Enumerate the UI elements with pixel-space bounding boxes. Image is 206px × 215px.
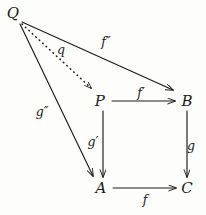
- edge-label-g: g: [187, 138, 195, 153]
- edge-label-g-prime: g′: [88, 134, 99, 149]
- edge-line-f-double-prime: [22, 22, 173, 90]
- node-label-B: B: [181, 92, 192, 110]
- edge-label-g-double-prime: g″: [36, 104, 49, 119]
- node-label-A: A: [95, 179, 106, 197]
- edge-label-f-double-prime: f″: [101, 34, 110, 49]
- edge-label-f-prime: f′: [137, 85, 144, 100]
- node-label-P: P: [95, 92, 105, 110]
- commutative-diagram: Q P B A C f″ q g″ f′ g′ g f: [0, 0, 206, 215]
- edge-label-f: f: [143, 192, 148, 207]
- node-label-C: C: [181, 179, 193, 197]
- edge-label-q: q: [57, 42, 65, 57]
- node-label-Q: Q: [7, 4, 20, 22]
